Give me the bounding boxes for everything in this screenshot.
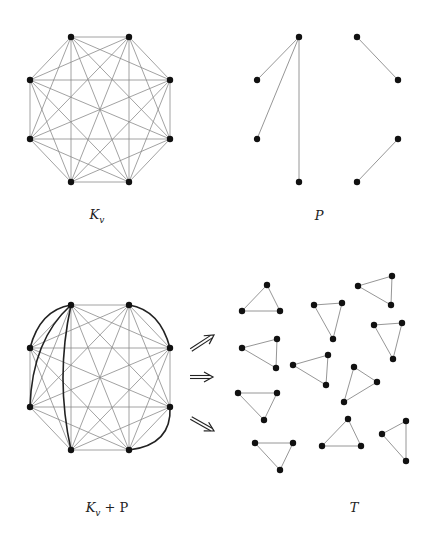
edge — [71, 37, 170, 139]
vertex — [277, 308, 283, 314]
vertex — [254, 77, 260, 83]
vertex — [27, 136, 33, 142]
triangle-edges — [255, 443, 293, 470]
triangle — [371, 320, 405, 362]
vertex — [167, 345, 173, 351]
arrow-head — [204, 372, 213, 382]
vertex — [341, 399, 347, 405]
vertex — [126, 179, 132, 185]
triangle-edges — [242, 339, 277, 368]
edge — [71, 348, 170, 450]
triangle — [239, 282, 283, 314]
vertex — [395, 77, 401, 83]
vertex — [274, 336, 280, 342]
vertex — [290, 440, 296, 446]
edge — [129, 139, 170, 182]
label-t: T — [350, 500, 359, 515]
vertex — [388, 302, 394, 308]
vertex — [277, 467, 283, 473]
vertex — [126, 302, 132, 308]
vertex — [252, 440, 258, 446]
label-kv-plus-p: Kv + P — [86, 500, 129, 518]
label-p: P — [315, 208, 324, 223]
vertex — [345, 416, 351, 422]
graph-kv-plus-p — [27, 302, 173, 453]
triangle — [239, 336, 280, 371]
vertex — [239, 308, 245, 314]
edge — [257, 37, 299, 139]
edge — [129, 407, 170, 450]
vertex — [27, 77, 33, 83]
vertex — [390, 356, 396, 362]
triangle-edges — [322, 419, 361, 446]
edge — [257, 37, 299, 80]
edge — [30, 139, 71, 182]
edge — [30, 305, 71, 407]
triangle-edges — [293, 355, 328, 385]
triangle — [379, 418, 409, 464]
decomposition-arrows — [190, 335, 214, 431]
edge — [30, 348, 129, 450]
vertex — [261, 417, 267, 423]
vertex — [379, 431, 385, 437]
triangle-edges — [242, 285, 280, 311]
triangle-edges — [382, 421, 406, 461]
vertex — [68, 179, 74, 185]
bold-edge — [63, 305, 71, 450]
vertex — [167, 136, 173, 142]
vertex — [167, 77, 173, 83]
vertex — [374, 379, 380, 385]
arrow-icon — [190, 335, 214, 351]
edge — [71, 305, 170, 407]
triangle-decomposition-t — [235, 273, 409, 473]
diagram-canvas — [0, 0, 428, 533]
vertex — [323, 382, 329, 388]
vertex — [27, 345, 33, 351]
vertex — [311, 302, 317, 308]
edge — [30, 80, 71, 182]
vertex — [319, 443, 325, 449]
triangle-edges — [238, 393, 277, 420]
arrow-shaft — [192, 338, 212, 351]
complete-graph-kv — [27, 34, 173, 185]
vertex — [68, 34, 74, 40]
edge — [129, 37, 170, 139]
arrow-shaft — [190, 335, 210, 348]
vertex — [351, 364, 357, 370]
edge — [129, 305, 170, 407]
edge — [129, 305, 170, 348]
vertex — [358, 443, 364, 449]
arrow-icon — [190, 372, 213, 382]
vertex — [296, 34, 302, 40]
triangle — [319, 416, 364, 449]
triangle — [252, 440, 296, 473]
vertex — [68, 447, 74, 453]
vertex — [395, 136, 401, 142]
vertex — [355, 283, 361, 289]
vertex — [68, 302, 74, 308]
vertex — [235, 390, 241, 396]
edge — [129, 37, 170, 80]
vertex — [290, 362, 296, 368]
edge — [357, 37, 398, 80]
vertex — [354, 179, 360, 185]
edge — [30, 37, 129, 139]
edge — [129, 80, 170, 182]
vertex — [254, 136, 260, 142]
edge — [71, 80, 170, 182]
vertex — [371, 322, 377, 328]
vertex — [354, 34, 360, 40]
vertex — [389, 273, 395, 279]
vertex — [126, 447, 132, 453]
triangle-edges — [344, 367, 377, 402]
vertex — [325, 352, 331, 358]
vertex — [273, 365, 279, 371]
edge — [357, 139, 398, 182]
label-kv: Kv — [90, 207, 105, 225]
triangle — [311, 300, 345, 342]
vertex — [126, 34, 132, 40]
triangle-edges — [358, 276, 392, 305]
vertex — [239, 345, 245, 351]
triangle — [290, 352, 331, 388]
edge — [30, 37, 71, 80]
